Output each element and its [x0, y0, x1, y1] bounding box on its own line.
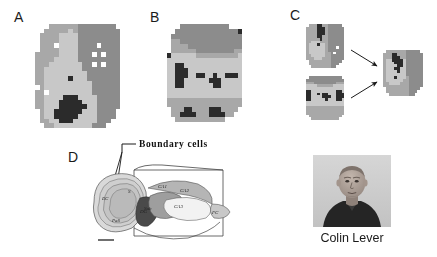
panel-label-a: A: [14, 10, 24, 24]
brain-region-label-pas: PaS: [111, 218, 121, 223]
rate-map-panel-b: [163, 24, 246, 122]
portrait-ear-left: [336, 180, 340, 187]
portrait-eye-right: [355, 180, 359, 182]
rate-map-panel-a: [30, 24, 125, 128]
rate-map-panel-c-source-bottom: [303, 76, 347, 120]
portrait-ear-right: [363, 180, 367, 187]
figure-canvas: A B C D Boundary cells: [0, 0, 437, 257]
hippocampal-formation-diagram: ECSDGCA1CA2CA3PaSSubFC: [88, 158, 248, 253]
panel-label-d: D: [68, 150, 78, 164]
arrow-top-to-merged: [351, 50, 377, 66]
brain-region-label-ca2: CA2: [180, 188, 189, 193]
portrait-caption: Colin Lever: [313, 231, 391, 245]
panel-label-b: B: [150, 10, 160, 24]
brain-region-label-ca1: CA1: [158, 184, 167, 189]
panel-label-c: C: [290, 8, 300, 22]
brain-region-label-fc: FC: [211, 210, 219, 215]
diagram-frame-top-curve: [134, 165, 223, 170]
rate-map-panel-c-merged: [380, 50, 426, 96]
portrait-eye-left: [345, 180, 349, 182]
boundary-cells-annotation-label: Boundary cells: [139, 139, 208, 149]
portrait-photo: [313, 155, 391, 227]
arrow-bottom-to-merged: [351, 82, 377, 98]
brain-region-label-ec: EC: [101, 196, 109, 201]
rate-map-panel-c-source-top: [303, 24, 347, 68]
leader-bracket: [122, 144, 136, 152]
brain-region-label-sub: Sub: [144, 206, 152, 211]
brain-region-label-ca3: CA3: [174, 204, 183, 209]
